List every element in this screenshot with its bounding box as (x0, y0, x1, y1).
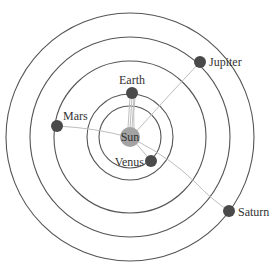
link-sun-mars (57, 126, 128, 137)
saturn-icon (223, 205, 235, 217)
venus-label: Venus (115, 155, 145, 169)
mars-icon (51, 120, 63, 132)
earth-label: Earth (119, 73, 145, 87)
planet-jupiter: Jupiter (194, 55, 242, 69)
solar-system-diagram: Sun Earth Venus Mars Jupiter Saturn (0, 0, 276, 268)
planet-venus: Venus (115, 155, 157, 169)
earth-icon (126, 87, 138, 99)
jupiter-label: Jupiter (209, 55, 242, 69)
planet-saturn: Saturn (223, 205, 269, 219)
mars-label: Mars (63, 109, 88, 123)
link-sun-saturn (137, 141, 229, 211)
sun-label: Sun (121, 130, 140, 144)
link-sun-earth-2 (130, 98, 132, 128)
link-sun-earth-1 (128, 97, 130, 128)
sun-node: Sun (120, 127, 140, 147)
jupiter-icon (194, 56, 206, 68)
venus-icon (145, 155, 157, 167)
saturn-label: Saturn (238, 205, 269, 219)
